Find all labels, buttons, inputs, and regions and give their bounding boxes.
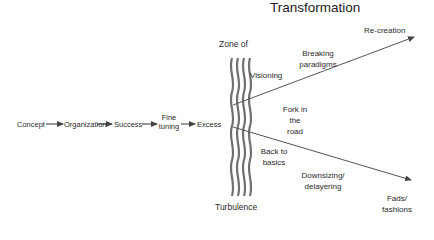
flow-step-excess: Excess [197,120,221,129]
fads-fashions-label: Fads/ fashions [380,193,414,215]
fads-line-2: fashions [380,204,414,215]
zone-top-label: Zone of [219,40,248,49]
fads-line-1: Fads/ [380,193,414,204]
fork-line-2: the [280,115,310,126]
downsizing-line-1: Downsizing/ [300,170,346,181]
downsizing-line-2: delayering [300,181,346,192]
wave-2 [237,58,239,196]
back-to-basics-label: Back to basics [254,146,294,168]
back-line-2: basics [254,157,294,168]
fork-in-the-road-label: Fork in the road [280,104,310,137]
back-line-1: Back to [254,146,294,157]
flow-step-concept: Concept [17,120,45,129]
breaking-line-1: Breaking [296,48,340,59]
flow-step-success: Success [114,120,142,129]
fork-line-1: Fork in [280,104,310,115]
zone-bottom-label: Turbulence [215,203,257,212]
fork-line-3: road [280,126,310,137]
visioning-label: Visioning [250,71,282,80]
breaking-line-2: paradigms [296,59,340,70]
wave-3 [243,58,245,196]
downsizing-delayering-label: Downsizing/ delayering [300,170,346,192]
breaking-paradigms-label: Breaking paradigms [296,48,340,70]
re-creation-label: Re-creation [364,26,405,35]
flow-step-organization: Organization [64,120,107,129]
wave-1 [231,58,233,196]
flow-step-fine-tuning: Fine tuning [158,113,180,131]
